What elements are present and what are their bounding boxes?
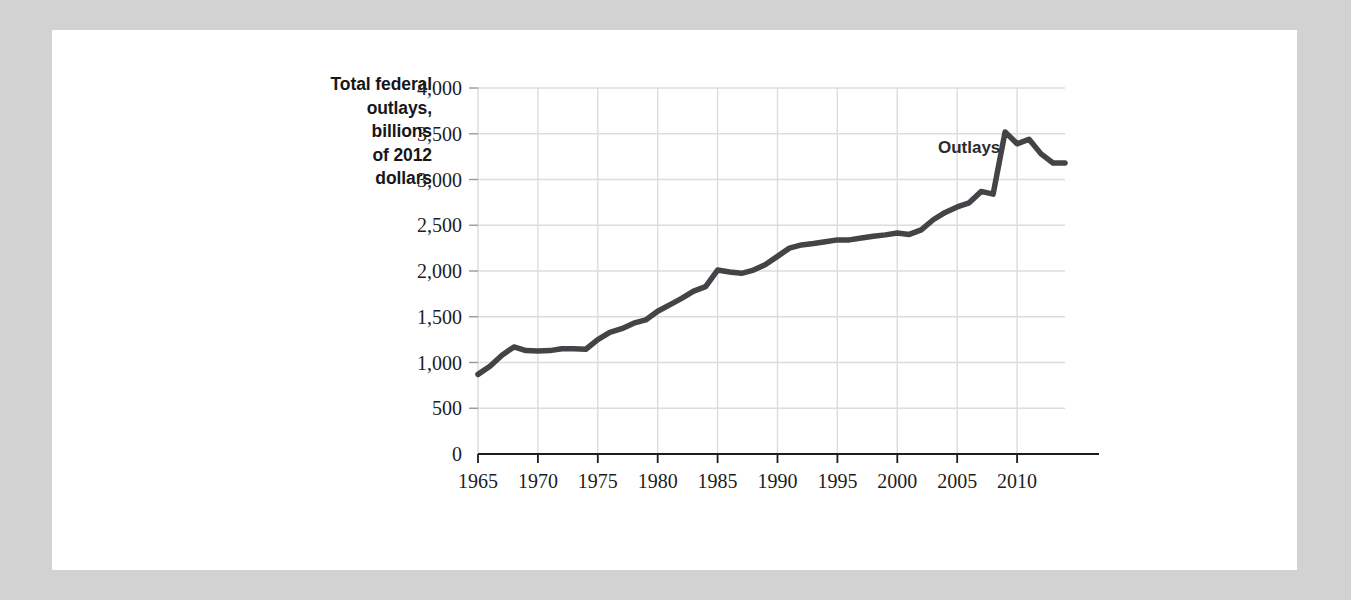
y-tick-label: 3,000: [417, 169, 462, 191]
y-tick-label: 0: [452, 443, 462, 465]
series-line-outlays: [478, 132, 1065, 374]
x-tick-label: 1965: [458, 470, 498, 492]
y-tick-label: 2,000: [417, 260, 462, 282]
x-tick-label: 1970: [518, 470, 558, 492]
y-tick-label: 1,000: [417, 352, 462, 374]
x-tick-label: 2005: [937, 470, 977, 492]
y-tick-label: 4,000: [417, 77, 462, 99]
x-tick-label: 1980: [638, 470, 678, 492]
page-root: Total federal outlays, billions of 2012 …: [0, 0, 1351, 600]
line-chart: Total federal outlays, billions of 2012 …: [52, 30, 1297, 570]
y-axis-ticks: 05001,0001,5002,0002,5003,0003,5004,000: [417, 77, 478, 465]
chart-svg: 05001,0001,5002,0002,5003,0003,5004,000 …: [52, 30, 1297, 570]
y-tick-label: 500: [432, 397, 462, 419]
figure-card: Total federal outlays, billions of 2012 …: [52, 30, 1297, 570]
x-axis-ticks: 1965197019751980198519901995200020052010: [458, 454, 1037, 492]
x-tick-label: 1990: [757, 470, 797, 492]
x-tick-label: 1995: [817, 470, 857, 492]
x-tick-label: 2000: [877, 470, 917, 492]
y-tick-label: 3,500: [417, 123, 462, 145]
x-tick-label: 1985: [698, 470, 738, 492]
series-annotation-outlays: Outlays: [938, 138, 1000, 157]
x-tick-label: 2010: [997, 470, 1037, 492]
x-tick-label: 1975: [578, 470, 618, 492]
y-tick-label: 2,500: [417, 214, 462, 236]
y-tick-label: 1,500: [417, 306, 462, 328]
